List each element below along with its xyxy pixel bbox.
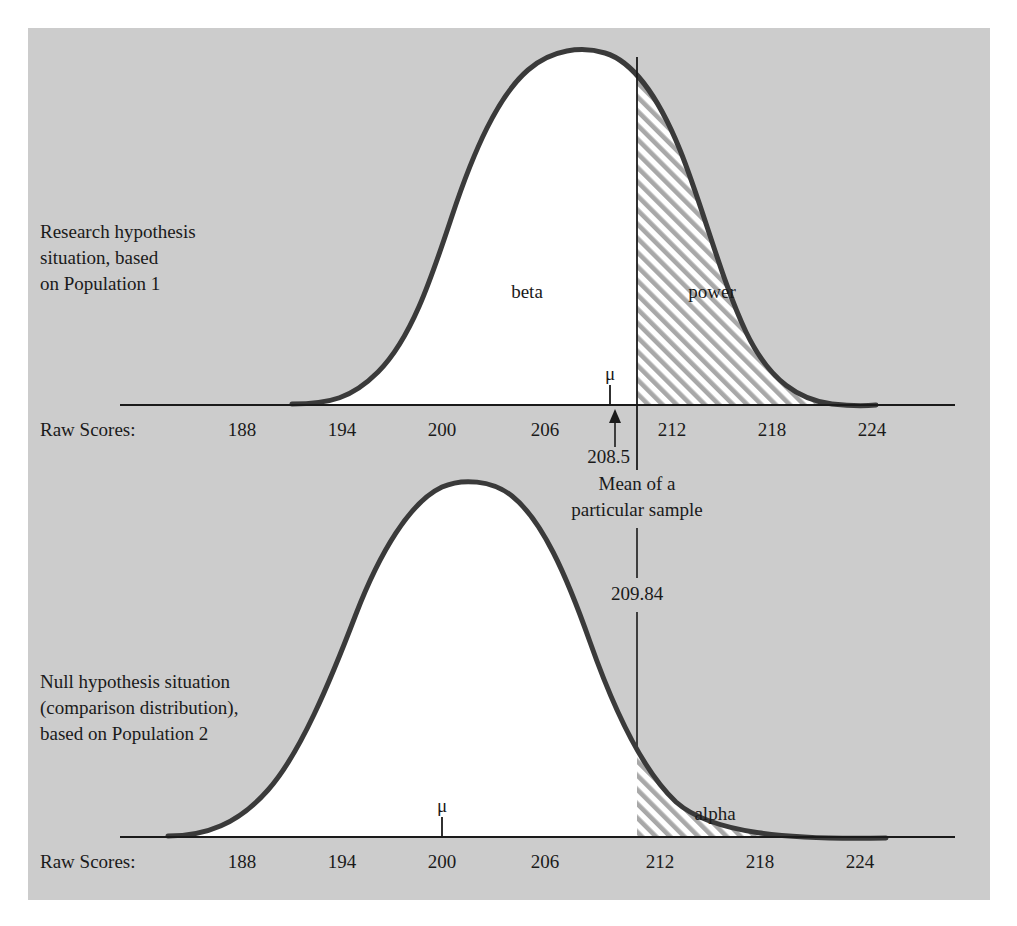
bottom-axis-label: Raw Scores: — [40, 851, 136, 872]
top-mu-label: μ — [605, 363, 615, 384]
bottom-alpha-region — [637, 470, 967, 838]
top-tick-label: 212 — [658, 419, 687, 440]
bottom-unshaded-region — [120, 470, 637, 838]
sample-mean-arrow-head — [609, 409, 621, 423]
bottom-chart: μ Raw Scores: 188 194 200 206 212 218 22… — [40, 470, 967, 872]
bottom-tick-label: 224 — [846, 851, 875, 872]
top-tick-label: 206 — [531, 419, 560, 440]
cutoff-value: 209.84 — [611, 583, 664, 604]
top-chart: μ Raw Scores: 188 194 200 206 212 218 22… — [40, 40, 967, 447]
power-label: power — [688, 281, 736, 302]
sample-mean-label-line-2: particular sample — [571, 499, 702, 520]
bottom-caption-line-2: (comparison distribution), — [40, 697, 238, 719]
beta-label: beta — [511, 281, 543, 302]
bottom-tick-label: 200 — [428, 851, 457, 872]
top-caption-line-1: Research hypothesis — [40, 221, 196, 242]
bottom-tick-label: 194 — [328, 851, 357, 872]
bottom-mu-label: μ — [437, 795, 447, 816]
bottom-caption-line-1: Null hypothesis situation — [40, 671, 231, 692]
alpha-label: alpha — [694, 803, 736, 824]
top-power-region — [637, 40, 967, 406]
bottom-tick-label: 188 — [228, 851, 257, 872]
top-tick-label: 224 — [858, 419, 887, 440]
top-caption-line-3: on Population 1 — [40, 273, 160, 294]
top-caption-line-2: situation, based — [40, 247, 159, 268]
top-tick-label: 218 — [758, 419, 787, 440]
power-analysis-figure: μ Raw Scores: 188 194 200 206 212 218 22… — [0, 0, 1017, 926]
bottom-caption-line-3: based on Population 2 — [40, 723, 208, 744]
top-beta-region — [120, 40, 637, 406]
sample-mean-value: 208.5 — [587, 446, 630, 467]
top-tick-label: 188 — [228, 419, 257, 440]
top-tick-label: 200 — [428, 419, 457, 440]
bottom-tick-label: 218 — [746, 851, 775, 872]
distributions-diagram: μ Raw Scores: 188 194 200 206 212 218 22… — [0, 0, 1017, 926]
sample-mean-label-line-1: Mean of a — [598, 473, 676, 494]
bottom-tick-label: 206 — [531, 851, 560, 872]
top-tick-label: 194 — [328, 419, 357, 440]
bottom-tick-label: 212 — [646, 851, 675, 872]
top-axis-label: Raw Scores: — [40, 419, 136, 440]
